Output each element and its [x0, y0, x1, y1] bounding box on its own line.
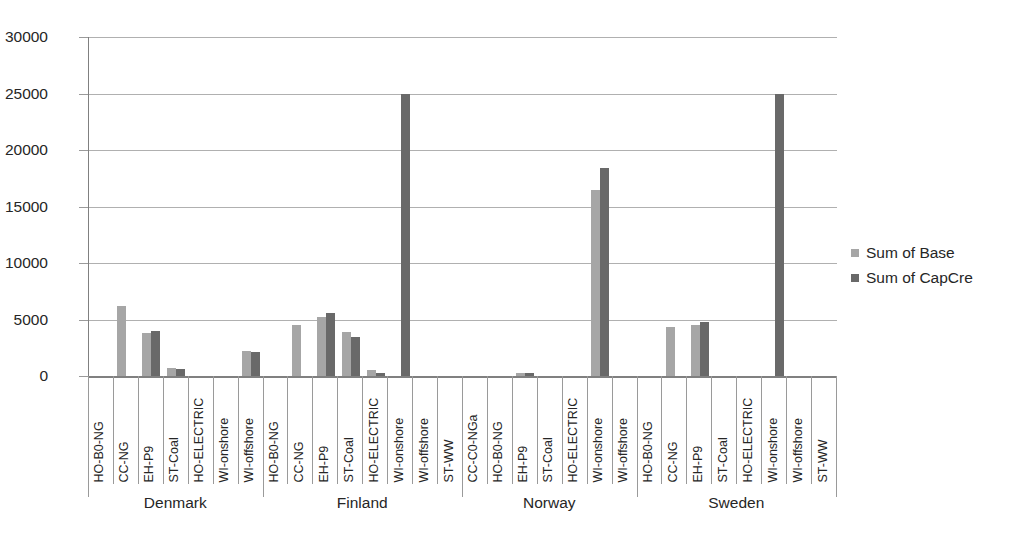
category-separator: [238, 376, 239, 484]
x-axis-category-label: WI-offshore: [417, 374, 430, 482]
bar-group: [239, 37, 264, 376]
x-axis-group-label: Denmark: [88, 495, 263, 511]
bar-group: [264, 37, 289, 376]
category-separator: [786, 376, 787, 484]
category-separator: [711, 376, 712, 484]
category-separator: [437, 376, 438, 484]
bar-group: [388, 37, 413, 376]
y-axis-tick-label: 25000: [5, 86, 48, 102]
x-axis-category-label: CC-NG: [118, 374, 131, 482]
x-axis-category-label: EH-P9: [517, 374, 530, 482]
bar-group: [563, 37, 588, 376]
y-axis: 050001000015000200002500030000: [0, 0, 74, 544]
bar-sum-of-base: [242, 351, 251, 376]
bar-sum-of-capcre: [351, 337, 360, 376]
y-axis-tick-mark: [79, 320, 88, 321]
bar-group: [164, 37, 189, 376]
x-axis-category-label: ST-Coal: [716, 374, 729, 482]
category-separator: [312, 376, 313, 484]
x-axis-category-label: ST-Coal: [342, 374, 355, 482]
x-axis-category-label: WI-offshore: [243, 374, 256, 482]
bar-group: [762, 37, 787, 376]
y-axis-tick-label: 15000: [5, 199, 48, 215]
category-separator: [612, 376, 613, 484]
x-axis-category-label: WI-onshore: [392, 374, 405, 482]
category-separator: [163, 376, 164, 484]
y-axis-tick-mark: [79, 376, 88, 377]
category-separator: [113, 376, 114, 484]
bar-group: [438, 37, 463, 376]
category-separator: [412, 376, 413, 484]
category-separator: [811, 376, 812, 484]
plot-area: [88, 37, 837, 376]
y-axis-tick-label: 0: [39, 368, 48, 384]
bar-group: [687, 37, 712, 376]
category-separator: [387, 376, 388, 484]
legend-label: Sum of CapCre: [866, 270, 973, 286]
category-separator: [686, 376, 687, 484]
x-axis-category-label: HO-ELECTRIC: [741, 374, 754, 482]
x-axis-category-label: WI-offshore: [791, 374, 804, 482]
x-axis-group-labels: DenmarkFinlandNorwaySweden: [88, 484, 836, 528]
bar-group: [638, 37, 663, 376]
y-axis-tick-mark: [79, 94, 88, 95]
bar-group: [513, 37, 538, 376]
x-axis-category-label: HO-ELECTRIC: [367, 374, 380, 482]
bar-sum-of-base: [117, 306, 126, 376]
bar-group: [712, 37, 737, 376]
x-axis-category-label: WI-offshore: [617, 374, 630, 482]
bars-layer: [89, 37, 837, 376]
x-axis-category-label: ST-Coal: [542, 374, 555, 482]
bar-group: [89, 37, 114, 376]
x-axis-category-label: ST-WW: [816, 374, 829, 482]
bar-sum-of-capcre: [775, 94, 784, 377]
bar-group: [737, 37, 762, 376]
bar-group: [214, 37, 239, 376]
category-separator: [761, 376, 762, 484]
bar-group: [288, 37, 313, 376]
legend-swatch-icon: [851, 274, 859, 282]
y-axis-tick-mark: [79, 150, 88, 151]
bar-sum-of-base: [142, 333, 151, 377]
category-separator: [462, 376, 463, 484]
bar-group: [413, 37, 438, 376]
x-axis-category-label: EH-P9: [317, 374, 330, 482]
x-axis-category-label: CC-C0-NGa: [467, 374, 480, 482]
bar-sum-of-base: [591, 190, 600, 376]
legend-swatch-icon: [851, 249, 859, 257]
bar-sum-of-base: [691, 325, 700, 376]
y-axis-tick-mark: [79, 37, 88, 38]
category-separator: [587, 376, 588, 484]
bar-group: [787, 37, 812, 376]
x-axis-category-label: WI-onshore: [592, 374, 605, 482]
bar-sum-of-base: [666, 327, 675, 376]
y-axis-tick-label: 30000: [5, 29, 48, 45]
bar-chart: 050001000015000200002500030000 HO-B0-NGC…: [0, 0, 1015, 544]
category-separator: [213, 376, 214, 484]
bar-group: [538, 37, 563, 376]
category-separator: [736, 376, 737, 484]
y-axis-tick-mark: [79, 263, 88, 264]
bar-group: [812, 37, 837, 376]
x-axis-category-label: CC-NG: [666, 374, 679, 482]
legend-item[interactable]: Sum of Base: [851, 240, 1011, 265]
category-separator: [188, 376, 189, 484]
legend: Sum of BaseSum of CapCre: [851, 240, 1011, 290]
category-separator: [836, 376, 837, 484]
y-axis-tick-mark: [79, 207, 88, 208]
category-separator: [138, 376, 139, 484]
legend-label: Sum of Base: [866, 245, 955, 261]
category-separator: [512, 376, 513, 484]
legend-item[interactable]: Sum of CapCre: [851, 265, 1011, 290]
x-axis-category-labels: HO-B0-NGCC-NGEH-P9ST-CoalHO-ELECTRICWI-o…: [88, 376, 836, 484]
bar-group: [338, 37, 363, 376]
bar-group: [463, 37, 488, 376]
x-axis-group-label: Finland: [263, 495, 462, 511]
x-axis-group-label: Norway: [462, 495, 637, 511]
bar-sum-of-base: [342, 332, 351, 376]
bar-sum-of-capcre: [600, 168, 609, 376]
bar-group: [114, 37, 139, 376]
y-axis-tick-label: 5000: [14, 312, 48, 328]
group-separator: [836, 484, 837, 497]
x-axis-group-label: Sweden: [637, 495, 836, 511]
